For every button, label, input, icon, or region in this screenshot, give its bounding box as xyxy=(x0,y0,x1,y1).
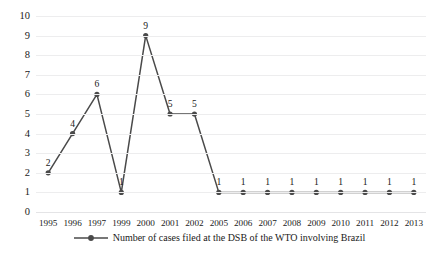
y-tick-label: 7 xyxy=(25,70,30,81)
x-axis: 1995199619971999200020012002200520062007… xyxy=(36,216,426,230)
gridline xyxy=(36,94,426,95)
data-point-label: 1 xyxy=(338,178,343,188)
data-point-label: 1 xyxy=(290,178,295,188)
data-point-label: 1 xyxy=(411,178,416,188)
gridline xyxy=(36,16,426,17)
y-tick-label: 1 xyxy=(25,187,30,198)
x-tick-label: 1997 xyxy=(88,216,106,230)
data-point-label: 5 xyxy=(192,99,197,109)
x-tick-label: 2009 xyxy=(307,216,325,230)
gridline xyxy=(36,114,426,115)
y-tick-label: 4 xyxy=(25,128,30,139)
x-tick-label: 2002 xyxy=(185,216,203,230)
data-point-label: 1 xyxy=(265,178,270,188)
data-point-label: 4 xyxy=(70,119,75,129)
x-tick-label: 2012 xyxy=(380,216,398,230)
x-tick-label: 2008 xyxy=(283,216,301,230)
data-point-label: 5 xyxy=(168,99,173,109)
chart-legend: Number of cases filed at the DSB of the … xyxy=(0,233,438,243)
y-tick-label: 2 xyxy=(25,168,30,179)
gridline xyxy=(36,75,426,76)
y-tick-label: 3 xyxy=(25,148,30,159)
data-point-label: 1 xyxy=(241,178,246,188)
x-tick-label: 1996 xyxy=(63,216,81,230)
x-tick-label: 2010 xyxy=(332,216,350,230)
y-tick-label: 10 xyxy=(20,11,31,22)
data-point-label: 1 xyxy=(363,178,368,188)
gridline xyxy=(36,55,426,56)
gridline xyxy=(36,153,426,154)
gridline xyxy=(36,134,426,135)
x-tick-label: 2005 xyxy=(210,216,228,230)
y-axis: 012345678910 xyxy=(0,0,30,253)
data-point-label: 1 xyxy=(314,178,319,188)
data-point-label: 6 xyxy=(95,80,100,90)
legend-label-cases-filed: Number of cases filed at the DSB of the … xyxy=(113,233,366,243)
data-point-label: 2 xyxy=(46,158,51,168)
x-tick-label: 2013 xyxy=(405,216,423,230)
data-point-label: 1 xyxy=(216,178,221,188)
x-tick-label: 2011 xyxy=(356,216,374,230)
x-tick-label: 1999 xyxy=(112,216,130,230)
x-tick-label: 2006 xyxy=(234,216,252,230)
gridline xyxy=(36,173,426,174)
y-tick-label: 8 xyxy=(25,50,30,61)
y-tick-label: 0 xyxy=(25,207,30,218)
gridline xyxy=(36,192,426,193)
x-tick-label: 2001 xyxy=(161,216,179,230)
data-point-label: 9 xyxy=(143,21,148,31)
gridline xyxy=(36,212,426,213)
y-tick-label: 9 xyxy=(25,30,30,41)
y-tick-label: 5 xyxy=(25,109,30,120)
x-tick-label: 1995 xyxy=(39,216,57,230)
data-point-label: 1 xyxy=(387,178,392,188)
legend-line-marker-icon xyxy=(73,233,109,243)
x-tick-label: 2000 xyxy=(137,216,155,230)
data-point-label: 1 xyxy=(119,178,124,188)
plot-area: 2461955111111111 xyxy=(36,16,426,212)
x-tick-label: 2007 xyxy=(258,216,276,230)
line-chart-figure: 012345678910 2461955111111111 1995199619… xyxy=(0,0,438,253)
y-tick-label: 6 xyxy=(25,89,30,100)
gridline xyxy=(36,36,426,37)
